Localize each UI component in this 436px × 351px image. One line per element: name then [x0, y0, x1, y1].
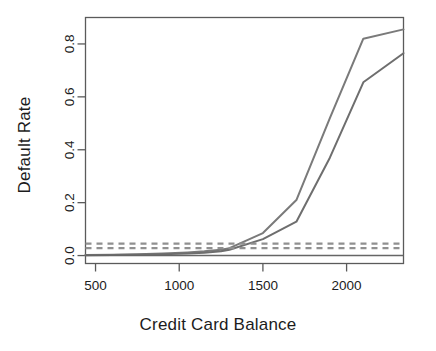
- x-tick-label: 2000: [332, 278, 362, 293]
- chart-figure: 500100015002000 0.00.20.40.60.8 Credit C…: [0, 0, 436, 351]
- y-tick-label: 0.2: [62, 193, 77, 212]
- x-tick-label: 1000: [164, 278, 194, 293]
- y-tick-label: 0.8: [62, 35, 77, 54]
- y-tick-label: 0.4: [62, 140, 77, 159]
- x-axis-title: Credit Card Balance: [0, 315, 436, 335]
- chart-plot-area: 500100015002000 0.00.20.40.60.8: [0, 0, 436, 351]
- y-axis-title: Default Rate: [15, 65, 35, 225]
- y-tick-label: 0.0: [62, 246, 77, 265]
- y-tick-label: 0.6: [62, 87, 77, 106]
- x-tick-label: 500: [84, 278, 107, 293]
- x-tick-label: 1500: [248, 278, 278, 293]
